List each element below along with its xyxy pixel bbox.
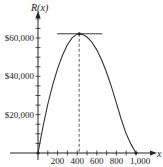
revenue-chart: $20,000$40,000$60,000 2004006008001,000 …: [0, 0, 163, 167]
x-axis-title: x: [156, 148, 162, 159]
x-tick-label: 1,000: [130, 156, 151, 166]
data-point: [36, 151, 39, 154]
x-tick-label: 400: [70, 156, 84, 166]
y-tick-label: $40,000: [5, 71, 35, 81]
x-axis-arrow-icon: [150, 151, 157, 156]
x-tick-label: 200: [51, 156, 65, 166]
y-tick-label: $60,000: [5, 33, 35, 43]
data-point: [134, 151, 137, 154]
y-ticks: $20,000$40,000$60,000: [5, 19, 41, 144]
revenue-curve: [38, 34, 136, 153]
y-tick-label: $20,000: [5, 110, 35, 120]
x-tick-label: 800: [110, 156, 124, 166]
y-axis-title: R(x): [30, 2, 49, 14]
key-points: [36, 32, 137, 154]
x-tick-label: 600: [90, 156, 104, 166]
data-point: [78, 32, 81, 35]
